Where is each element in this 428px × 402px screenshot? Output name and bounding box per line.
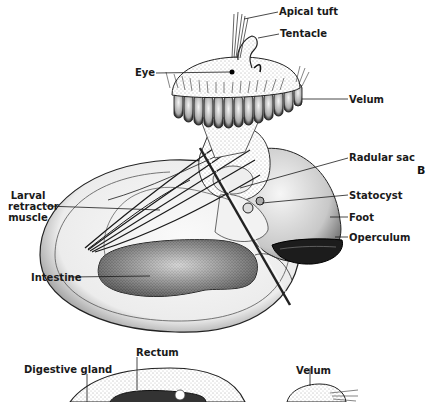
label-line-3: muscle <box>8 212 48 223</box>
label-digestive-gland: Digestive gland <box>24 364 112 375</box>
label-radular-sac: Radular sac <box>349 152 415 163</box>
label-tentacle: Tentacle <box>280 28 327 39</box>
label-rectum: Rectum <box>136 347 179 358</box>
label-apical-tuft: Apical tuft <box>279 6 338 17</box>
label-statocyst: Statocyst <box>349 190 403 201</box>
panel-letter-b: B <box>417 164 425 177</box>
veliger-larva-illustration <box>0 0 428 402</box>
label-foot: Foot <box>349 212 374 223</box>
label-line-2: retractor <box>8 201 48 212</box>
eye <box>230 70 235 75</box>
statocyst <box>243 203 253 213</box>
label-eye: Eye <box>135 67 155 78</box>
label-line-1: Larval <box>8 190 48 201</box>
label-velum-lower: Velum <box>296 365 331 376</box>
label-intestine: Intestine <box>31 272 81 283</box>
label-larval-retractor-muscle: Larval retractor muscle <box>8 190 48 223</box>
label-operculum: Operculum <box>349 232 410 243</box>
label-velum: Velum <box>349 94 384 105</box>
intestine <box>98 240 257 297</box>
velum <box>166 57 309 128</box>
